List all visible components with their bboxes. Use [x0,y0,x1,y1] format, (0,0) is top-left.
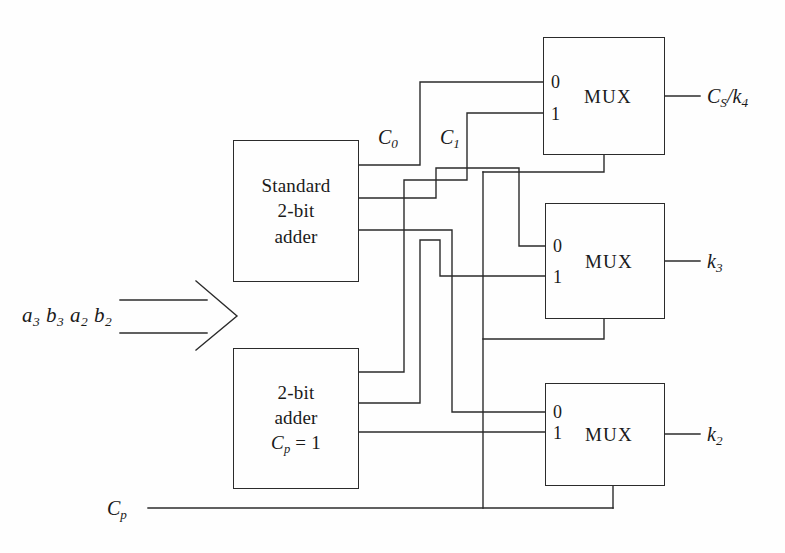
mux-bot-port1-label: 1 [553,424,562,442]
input-bit-b3: b3 [46,303,64,327]
input-bit-b2: b2 [94,303,112,327]
mux-top-port0-label: 0 [551,73,560,91]
circuit-diagram: Standard 2-bit adder 2-bit adder Cp = 1 … [0,0,785,553]
carry0-label: C0 [378,127,398,150]
output-bot-label: k2 [707,424,722,447]
standard-adder-line3: adder [274,224,317,249]
carry-adder-cp-equation: Cp = 1 [271,430,321,457]
standard-adder-line1: Standard [261,173,330,198]
input-bit-a3: a3 [22,303,40,327]
mux-bot-label: MUX [585,424,633,446]
wire-sel-mux-top [483,155,604,172]
carry-adder-line1: 2-bit [278,380,315,405]
mux-top-label: MUX [584,86,632,108]
carry-p-label: Cp [107,498,127,521]
mux-mid-label: MUX [585,251,633,273]
mux-mid-port0-label: 0 [553,237,562,255]
output-top-label: CS/k4 [707,86,748,109]
wire-sum2-to-mux-bot-in0 [359,230,545,412]
input-bus-arrow [120,281,237,350]
output-mid-label: k3 [707,251,722,274]
wire-c0-to-mux-top-in0 [359,82,543,165]
wire-layer [0,0,785,553]
mux-top-port1-label: 1 [551,105,560,123]
standard-adder-line2: 2-bit [278,198,315,223]
carry1-label: C1 [440,127,460,150]
carry-adder-block[interactable]: 2-bit adder Cp = 1 [233,348,359,489]
input-bit-a2: a2 [70,303,88,327]
mux-mid-port1-label: 1 [553,268,562,286]
wire-c1-to-mux-top-in1 [359,113,543,372]
carry-adder-line2: adder [274,405,317,430]
mux-bot-port0-label: 0 [553,403,562,421]
wire-sel-mux-mid [483,319,604,339]
input-bus-label: a3 b3 a2 b2 [22,305,112,328]
standard-adder-block[interactable]: Standard 2-bit adder [233,140,359,282]
